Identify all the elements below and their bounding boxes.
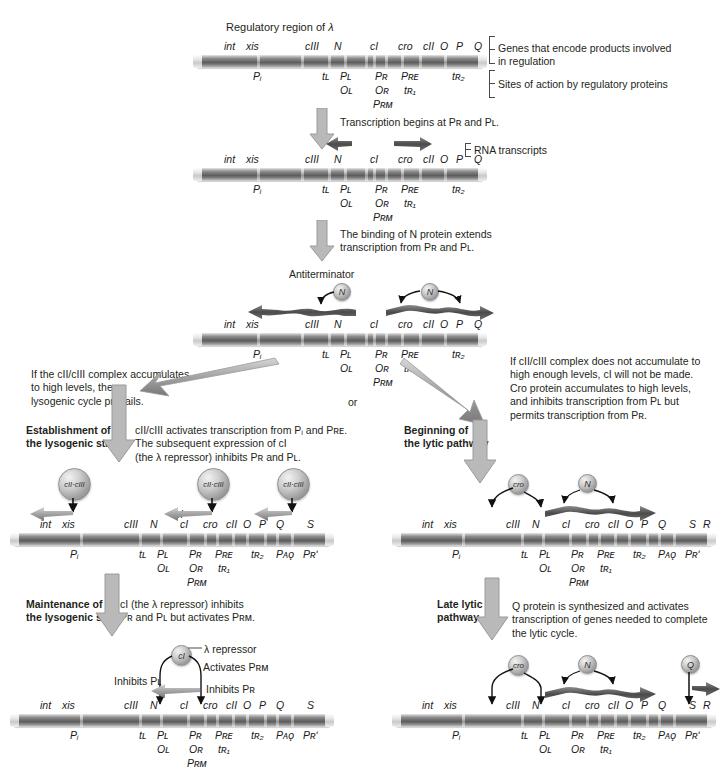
gene-label-cII: cII — [423, 40, 434, 52]
gene-label-cIII: cIII — [124, 699, 138, 711]
gene-label-cro: cro — [203, 518, 218, 530]
site-label-OR: Oʀ — [375, 84, 389, 96]
site-label-PR: Pʀ — [375, 348, 388, 360]
site-label-tR2: tʀ₂ — [633, 548, 646, 560]
legend-genes: Genes that encode products involved in r… — [498, 42, 671, 69]
gene-label-Q: Q — [276, 518, 284, 530]
site-label-PL: Pʟ — [340, 183, 352, 195]
site-label-OR: Oʀ — [189, 562, 203, 574]
site-label-PI: Pᵢ — [452, 548, 460, 560]
site-label-tR1: tʀ₁ — [600, 743, 612, 755]
gene-label-xis: xis — [444, 518, 457, 530]
site-label-tR1: tʀ₁ — [404, 197, 416, 209]
flow-arrow-step1 — [309, 108, 335, 150]
dna-map-4-left — [14, 533, 330, 546]
activates-prm-label: Activates Pʀᴍ — [203, 661, 268, 674]
site-label-PRp: Pʀʹ — [303, 548, 318, 560]
lambda-repressor-label: λ repressor — [204, 643, 257, 656]
gene-label-cIII: cIII — [124, 518, 138, 530]
gene-label-O: O — [243, 518, 251, 530]
gene-label-R: R — [703, 699, 711, 711]
gene-label-cro: cro — [398, 318, 413, 330]
protein-Q: Q — [681, 655, 700, 674]
gene-label-cI: cI — [370, 153, 378, 165]
lytic-heading: Beginning of the lytic pathway — [404, 424, 489, 451]
gene-label-int: int — [40, 699, 51, 711]
site-label-tR2: tʀ₂ — [633, 729, 646, 741]
gene-label-cro: cro — [585, 518, 600, 530]
gene-label-cIII: cIII — [305, 153, 319, 165]
site-label-tL: tʟ — [322, 348, 330, 360]
gene-label-P: P — [259, 518, 266, 530]
site-label-PR: Pʀ — [375, 183, 388, 195]
site-label-OL: Oʟ — [340, 362, 353, 374]
gene-label-xis: xis — [62, 518, 75, 530]
protein-cII-cIII-3: cII·cIII — [277, 468, 310, 501]
site-label-PR: Pʀ — [189, 548, 202, 560]
gene-label-Q: Q — [474, 40, 482, 52]
site-label-OL: Oʟ — [340, 197, 353, 209]
protein-cII-cIII-2: cII·cIII — [197, 468, 230, 501]
site-label-tL: tʟ — [521, 548, 529, 560]
dna-map-3 — [197, 333, 483, 346]
site-label-PRE: Pʀᴇ — [401, 70, 419, 82]
site-label-PI: Pᵢ — [70, 548, 78, 560]
gene-label-cII: cII — [608, 699, 619, 711]
gene-label-O: O — [440, 153, 448, 165]
figure-title: Regulatory region of λ — [226, 20, 334, 34]
gene-label-xis: xis — [246, 318, 259, 330]
gene-label-S: S — [307, 699, 314, 711]
gene-label-R: R — [703, 518, 711, 530]
site-label-PR: Pʀ — [571, 729, 584, 741]
site-label-tR1: tʀ₁ — [404, 84, 416, 96]
site-label-PRp: Pʀʹ — [303, 729, 318, 741]
gene-label-P: P — [641, 699, 648, 711]
gene-label-cII: cII — [423, 318, 434, 330]
site-label-PRM: Pʀᴍ — [569, 576, 589, 588]
site-label-PI: Pᵢ — [452, 729, 460, 741]
bracket-genes-stem — [489, 49, 495, 50]
site-label-PRM: Pʀᴍ — [373, 98, 393, 110]
site-label-PRE: Pʀᴇ — [215, 548, 233, 560]
site-label-tR1: tʀ₁ — [218, 562, 230, 574]
site-label-PR: Pʀ — [189, 729, 202, 741]
transcript-right-panel2 — [394, 137, 432, 151]
gene-label-N: N — [150, 518, 158, 530]
gene-label-P: P — [641, 518, 648, 530]
site-label-tR2: tʀ₂ — [452, 70, 465, 82]
gene-label-Q: Q — [658, 699, 666, 711]
site-label-PRE: Pʀᴇ — [401, 348, 419, 360]
gene-label-cII: cII — [423, 153, 434, 165]
site-label-PAQ: Pᴀǫ — [276, 729, 294, 741]
gene-label-P: P — [456, 153, 463, 165]
branch-right-text: If cII/cIII complex does not accumulate … — [510, 355, 700, 422]
dna-map-5-right — [396, 714, 712, 727]
gene-label-xis: xis — [444, 699, 457, 711]
protein-cII-cIII-1: cII·cIII — [58, 468, 91, 501]
gene-label-S: S — [307, 518, 314, 530]
n-binding-arrows-left — [321, 292, 334, 304]
gene-label-cIII: cIII — [305, 40, 319, 52]
site-label-PR: Pʀ — [375, 70, 388, 82]
site-label-tL: tʟ — [139, 548, 147, 560]
site-label-tL: tʟ — [322, 183, 330, 195]
gene-label-Q: Q — [474, 318, 482, 330]
site-label-PRp: Pʀʹ — [685, 548, 700, 560]
gene-label-int: int — [224, 318, 235, 330]
site-label-tL: tʟ — [322, 70, 330, 82]
step1-text: Transcription begins at Pʀ and Pʟ. — [340, 116, 499, 129]
site-label-PL: Pʟ — [340, 70, 352, 82]
gene-label-O: O — [625, 518, 633, 530]
gene-label-cI: cI — [370, 40, 378, 52]
site-label-PRE: Pʀᴇ — [597, 729, 615, 741]
site-label-tR2: tʀ₂ — [251, 548, 264, 560]
site-label-PR: Pʀ — [571, 548, 584, 560]
site-label-PI: Pᵢ — [70, 729, 78, 741]
site-label-tR2: tʀ₂ — [251, 729, 264, 741]
protein-N-left: N — [333, 283, 351, 301]
bracket-rna-stem — [465, 149, 471, 150]
protein-N-lytic-2: N — [578, 655, 597, 674]
flow-arrow-step2 — [309, 220, 335, 262]
dna-map-5-left — [14, 714, 330, 727]
site-label-OR: Oʀ — [189, 743, 203, 755]
